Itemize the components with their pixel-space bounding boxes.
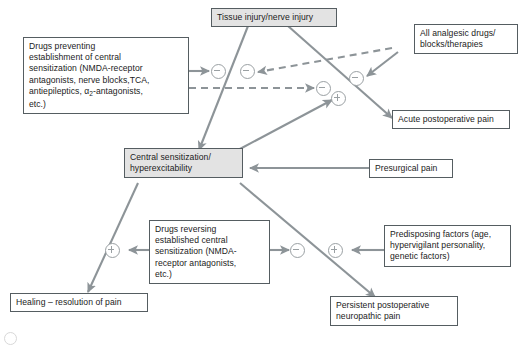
acute-postop-line-1: Acute postoperative pain [398, 114, 505, 125]
drugs-reversing-line-2: established central [155, 235, 265, 246]
persistent-postoperative-neuropathic-pain-node: Persistent postoperative neuropathic pai… [330, 296, 458, 326]
central-sensitization-line-2: hyperexcitability [130, 163, 238, 174]
predisposing-factors-line-1: Predisposing factors (age, [390, 229, 506, 240]
drugs-reversing-line-4: receptor antagonists, [155, 258, 265, 269]
plus-sign-predisposing-factors-on-persistent-pain [328, 243, 343, 258]
caption-circle-mark [4, 332, 17, 345]
acute-postoperative-pain-node: Acute postoperative pain [392, 110, 510, 129]
predisposing-factors-line-2: hypervigilant personality, [390, 240, 506, 251]
drugs-preventing-line-5: antiepileptics, α2-antagonists, [29, 86, 184, 99]
edge-central-sensitization-to-healing [88, 183, 138, 292]
drugs-reversing-line-3: sensitization (NMDA- [155, 246, 265, 257]
minus-sign-analgesics-on-acute-pain [349, 71, 364, 86]
edge-central-sensitization-to-acute-pain [238, 100, 332, 150]
all-analgesic-line-2: blocks/therapies [420, 39, 513, 50]
persistent-postop-line-1: Persistent postoperative [336, 300, 453, 311]
drugs-reversing-line-1: Drugs reversing [155, 224, 265, 235]
tissue-injury-line-1: Tissue injury/nerve injury [217, 12, 332, 23]
drugs-preventing-line-4: antagonists, nerve blocks,TCA, [29, 75, 184, 86]
tissue-injury-node: Tissue injury/nerve injury [211, 8, 337, 27]
drugs-reversing-node: Drugs reversing established central sens… [149, 220, 270, 284]
flowchart-diagram: Tissue injury/nerve injury All analgesic… [0, 0, 523, 345]
minus-sign-reversing-drugs-on-persistent-pain [290, 243, 305, 258]
drugs-preventing-line-1: Drugs preventing [29, 41, 184, 52]
plus-sign-reversing-drugs-to-healing [105, 243, 120, 258]
drugs-reversing-line-5: etc.) [155, 269, 265, 280]
drugs-preventing-line-6: etc.) [29, 99, 184, 110]
minus-sign-preventive-drugs-on-acute-pain [316, 81, 331, 96]
presurgical-pain-line-1: Presurgical pain [375, 163, 448, 174]
predisposing-factors-node: Predisposing factors (age, hypervigilant… [384, 225, 511, 267]
minus-sign-analgesics-on-central-sensitization [240, 64, 255, 79]
drugs-preventing-node: Drugs preventing establishment of centra… [23, 37, 189, 114]
predisposing-factors-line-3: genetic factors) [390, 251, 506, 262]
edge-analgesics-to-acute-pain [367, 52, 398, 76]
drugs-preventing-line-2: establishment of central [29, 52, 184, 63]
plus-sign-central-sensitization-to-acute-pain [331, 91, 346, 106]
central-sensitization-node: Central sensitization/ hyperexcitability [124, 148, 243, 178]
healing-line-1: Healing – resolution of pain [16, 297, 143, 308]
all-analgesic-drugs-node: All analgesic drugs/ blocks/therapies [414, 24, 518, 54]
central-sensitization-line-1: Central sensitization/ [130, 152, 238, 163]
presurgical-pain-node: Presurgical pain [369, 159, 453, 178]
healing-node: Healing – resolution of pain [10, 293, 148, 312]
persistent-postop-line-2: neuropathic pain [336, 311, 453, 322]
minus-sign-inhibit-central-sensitization [211, 64, 226, 79]
drugs-preventing-line-3: sensitization (NMDA-receptor [29, 63, 184, 74]
all-analgesic-line-1: All analgesic drugs/ [420, 28, 513, 39]
